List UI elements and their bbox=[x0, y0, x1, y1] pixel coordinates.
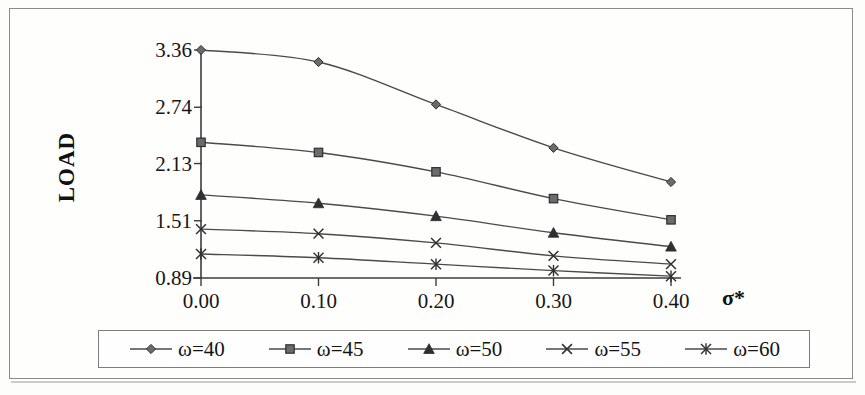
legend-item-4[interactable]: ω=60 bbox=[683, 337, 780, 362]
diamond-marker bbox=[666, 177, 675, 186]
chart-legend: ω=40ω=45ω=50ω=55ω=60 bbox=[98, 330, 810, 368]
series-60 bbox=[196, 248, 676, 282]
square-marker bbox=[286, 345, 294, 353]
legend-item-0[interactable]: ω=40 bbox=[128, 337, 225, 362]
diamond-marker bbox=[128, 340, 174, 358]
data-series-layer bbox=[196, 45, 677, 282]
x-tick-label-1: 0.10 bbox=[300, 289, 337, 314]
square-marker bbox=[267, 340, 313, 358]
series-40 bbox=[196, 45, 675, 186]
legend-item-3[interactable]: ω=55 bbox=[544, 337, 641, 362]
legend-item-label: ω=45 bbox=[317, 337, 364, 362]
y-tick-label-0: 0.89 bbox=[130, 266, 192, 291]
legend-item-1[interactable]: ω=45 bbox=[267, 337, 364, 362]
axes-lines bbox=[193, 48, 681, 286]
square-marker bbox=[314, 148, 322, 156]
y-axis-title: LOAD bbox=[50, 102, 84, 232]
x-tick-label-0: 0.00 bbox=[183, 289, 220, 314]
legend-item-label: ω=55 bbox=[594, 337, 641, 362]
legend-item-label: ω=50 bbox=[456, 337, 503, 362]
triangle-marker bbox=[406, 340, 452, 358]
asterisk-marker bbox=[683, 340, 729, 358]
y-tick-label-1: 1.51 bbox=[130, 208, 192, 233]
x-tick-label-3: 0.30 bbox=[535, 289, 572, 314]
legend-item-2[interactable]: ω=50 bbox=[406, 337, 503, 362]
cross-marker bbox=[544, 340, 590, 358]
diamond-marker bbox=[314, 57, 323, 66]
x-axis-title: σ* bbox=[722, 285, 745, 311]
legend-item-label: ω=60 bbox=[733, 337, 780, 362]
y-tick-label-4: 3.36 bbox=[130, 38, 192, 63]
diamond-marker bbox=[146, 344, 155, 353]
square-marker bbox=[432, 168, 440, 176]
square-marker bbox=[197, 138, 205, 146]
diamond-marker bbox=[431, 100, 440, 109]
y-tick-label-3: 2.74 bbox=[130, 95, 192, 120]
legend-item-label: ω=40 bbox=[178, 337, 225, 362]
chart-figure: 0.891.512.132.743.36 0.000.100.200.300.4… bbox=[0, 0, 865, 395]
series-line bbox=[201, 142, 671, 220]
diamond-marker bbox=[549, 143, 558, 152]
x-tick-label-4: 0.40 bbox=[653, 289, 690, 314]
y-axis-title-text: LOAD bbox=[54, 132, 80, 202]
series-line bbox=[201, 50, 671, 182]
x-tick-label-2: 0.20 bbox=[418, 289, 455, 314]
square-marker bbox=[667, 216, 675, 224]
diamond-marker bbox=[196, 45, 205, 54]
square-marker bbox=[549, 194, 557, 202]
y-tick-label-2: 2.13 bbox=[130, 151, 192, 176]
